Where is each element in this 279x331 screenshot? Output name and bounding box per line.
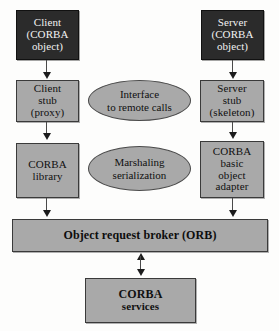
node-basic-object-adapter-line-4: adapter: [215, 181, 248, 193]
arrowhead-client-stub-to-corba-library: [43, 133, 51, 140]
node-server-stub-line-3: (skeleton): [210, 107, 255, 119]
arrowhead-corba-library-to-orb: [43, 210, 51, 217]
node-corba-services: CORBA services: [85, 278, 196, 323]
node-client-object: Client (CORBA object): [16, 10, 79, 60]
arrowhead-orb-services-down: [137, 269, 145, 276]
arrowhead-basic-object-adapter-to-orb: [229, 210, 237, 217]
arrowhead-orb-services-up: [137, 253, 145, 260]
node-basic-object-adapter: CORBA basic object adapter: [200, 141, 264, 198]
node-corba-library-line-1: CORBA: [28, 159, 66, 171]
node-orb-bar: Object request broker (ORB): [12, 219, 268, 252]
node-client-object-line-3: object): [32, 41, 63, 53]
node-basic-object-adapter-line-2: basic: [220, 158, 243, 170]
corba-architecture-diagram: Client (CORBA object) Server (CORBA obje…: [0, 0, 279, 331]
node-marshaling-ellipse-line-1: Marshaling: [114, 156, 164, 168]
node-marshaling-ellipse-line-2: serialization: [113, 169, 167, 181]
arrowhead-server-object-to-server-stub: [229, 72, 237, 79]
node-marshaling-ellipse: Marshaling serialization: [88, 146, 191, 191]
node-server-object: Server (CORBA object): [201, 10, 264, 60]
node-corba-library: CORBA library: [16, 143, 79, 198]
node-interface-ellipse: Interface to remote calls: [88, 80, 191, 121]
node-corba-services-line-2: services: [122, 301, 159, 313]
node-server-object-line-3: object): [217, 41, 248, 53]
node-orb-bar-label: Object request broker (ORB): [63, 229, 216, 242]
node-interface-ellipse-line-2: to remote calls: [107, 101, 172, 113]
connector-orb-to-corba-services: [140, 256, 141, 270]
arrowhead-client-object-to-client-stub: [43, 72, 51, 79]
node-corba-library-line-2: library: [32, 171, 62, 183]
node-client-stub-line-3: (proxy): [31, 107, 65, 119]
node-client-stub: Client stub (proxy): [16, 80, 79, 122]
node-server-stub: Server stub (skeleton): [200, 80, 264, 122]
node-basic-object-adapter-line-1: CORBA: [213, 146, 251, 158]
arrowhead-server-stub-to-basic-object-adapter: [229, 132, 237, 139]
node-interface-ellipse-line-1: Interface: [120, 88, 159, 100]
